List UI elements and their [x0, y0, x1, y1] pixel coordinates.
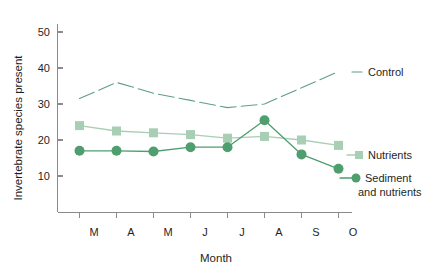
legend-label-sediment-line2: and nutrients — [358, 186, 422, 198]
series-control — [80, 72, 339, 108]
y-tick-label-40: 40 — [38, 62, 50, 74]
legend-connectors — [340, 72, 363, 183]
legend-label-nutrients: Nutrients — [368, 149, 413, 161]
y-tick-label-50: 50 — [38, 26, 50, 38]
x-tick-label-8: O — [349, 226, 358, 238]
x-axis-title: Month — [200, 252, 232, 264]
x-tick-label-1: M — [89, 226, 98, 238]
x-tick-label-7: S — [312, 226, 319, 238]
data-point-sediment-1 — [112, 146, 122, 156]
legend-sediment-marker — [352, 174, 361, 183]
data-point-sediment-6 — [297, 149, 307, 159]
legend-nutrients-marker — [355, 151, 363, 159]
data-point-nutrients-3 — [186, 130, 195, 139]
data-point-sediment-0 — [75, 146, 85, 156]
data-point-nutrients-1 — [112, 127, 121, 136]
x-tick-label-4: J — [202, 226, 208, 238]
y-axis-ticks — [58, 32, 63, 176]
y-tick-label-20: 20 — [38, 134, 50, 146]
x-tick-label-3: M — [163, 226, 172, 238]
series-line-control — [80, 72, 339, 108]
series-nutrients — [75, 121, 343, 150]
x-tick-label-2: A — [127, 226, 135, 238]
line-chart: 50 40 30 20 10 M A M J J A S O Invertebr… — [0, 0, 433, 275]
data-point-sediment-2 — [149, 147, 159, 157]
data-point-sediment-3 — [186, 142, 196, 152]
data-point-sediment-7 — [334, 164, 344, 174]
data-point-sediment-5 — [260, 115, 270, 125]
data-point-nutrients-0 — [75, 121, 84, 130]
data-point-nutrients-6 — [297, 136, 306, 145]
x-tick-label-5: J — [239, 226, 245, 238]
data-point-sediment-4 — [223, 142, 233, 152]
y-tick-label-10: 10 — [38, 170, 50, 182]
data-point-nutrients-2 — [149, 128, 158, 137]
x-tick-label-6: A — [275, 226, 283, 238]
x-axis-ticks — [80, 213, 339, 219]
data-point-nutrients-5 — [260, 132, 269, 141]
y-tick-label-30: 30 — [38, 98, 50, 110]
legend-label-control: Control — [368, 66, 403, 78]
data-point-nutrients-4 — [223, 134, 232, 143]
legend-label-sediment-line1: Sediment — [365, 172, 411, 184]
data-point-nutrients-7 — [334, 141, 343, 150]
y-axis-title: Invertebrate species present — [12, 55, 24, 201]
chart-container: 50 40 30 20 10 M A M J J A S O Invertebr… — [0, 0, 433, 275]
